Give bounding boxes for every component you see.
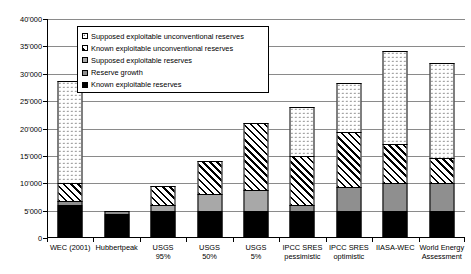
bar-segment — [197, 211, 222, 238]
stacked-bar[interactable] — [197, 161, 222, 238]
legend-item-label: Supposed exploitable reserves — [91, 56, 192, 65]
y-axis-tick-label: 30'000 — [0, 70, 42, 79]
legend-item-label: Supposed exploitable unconventional rese… — [91, 32, 244, 41]
bar-slot — [279, 19, 325, 238]
stacked-bar[interactable] — [290, 107, 315, 238]
legend-item: Supposed exploitable reserves — [82, 54, 268, 66]
stacked-bar[interactable] — [383, 51, 408, 238]
bar-segment — [290, 156, 315, 205]
x-axis-tick — [47, 238, 48, 242]
stacked-bar[interactable] — [336, 83, 361, 238]
bar-segment — [290, 211, 315, 238]
legend-swatch-icon — [82, 70, 88, 76]
y-axis-tick-label: 35'000 — [0, 42, 42, 51]
y-axis-tick-label: 20'000 — [0, 125, 42, 134]
bar-chart: 05'00010'00015'00020'00025'00030'00035'0… — [0, 0, 471, 274]
bar-segment — [58, 205, 83, 238]
bar-segment — [336, 187, 361, 211]
x-axis-tick — [140, 238, 141, 242]
x-axis-tick — [419, 238, 420, 242]
legend-item: Supposed exploitable unconventional rese… — [82, 30, 268, 42]
legend-item-label: Known exploitable unconventional reserve… — [91, 44, 233, 53]
legend-swatch-icon — [82, 57, 88, 63]
bar-segment — [290, 107, 315, 156]
x-axis-category-label: World Energy Assessment — [415, 243, 469, 262]
y-axis-tick-label: 10'000 — [0, 179, 42, 188]
x-axis-labels: WEC (2001)HubbertpeakUSGS 95%USGS 50%USG… — [47, 243, 465, 274]
bar-segment — [429, 183, 454, 210]
bar-segment — [336, 83, 361, 132]
legend-swatch-icon — [82, 33, 88, 39]
y-axis-tick-label: 40'000 — [0, 15, 42, 24]
bar-segment — [151, 211, 176, 238]
legend-item: Known exploitable reserves — [82, 79, 268, 91]
bar-slot — [326, 19, 372, 238]
x-axis-tick — [233, 238, 234, 242]
bar-segment — [58, 81, 83, 183]
bar-slot — [419, 19, 465, 238]
x-axis-tick — [326, 238, 327, 242]
bar-segment — [383, 144, 408, 183]
y-axis-tick-label: 25'000 — [0, 97, 42, 106]
y-axis-tick-label: 15'000 — [0, 152, 42, 161]
x-axis-tick — [372, 238, 373, 242]
bar-segment — [104, 214, 129, 238]
y-axis-tick-label: 5'000 — [0, 207, 42, 216]
bar-segment — [58, 183, 83, 201]
stacked-bar[interactable] — [58, 81, 83, 238]
bar-segment — [243, 190, 268, 210]
bar-segment — [243, 211, 268, 238]
bar-segment — [336, 211, 361, 238]
x-axis-tick — [279, 238, 280, 242]
bar-segment — [243, 123, 268, 190]
x-axis-tick — [186, 238, 187, 242]
legend-swatch-icon — [82, 45, 88, 51]
bar-segment — [383, 51, 408, 144]
bar-segment — [429, 211, 454, 238]
stacked-bar[interactable] — [243, 123, 268, 238]
bar-segment — [429, 158, 454, 184]
bar-segment — [197, 194, 222, 210]
legend-item-label: Reserve growth — [91, 68, 143, 77]
legend-swatch-icon — [82, 82, 88, 88]
bar-segment — [383, 183, 408, 210]
bar-segment — [151, 186, 176, 205]
stacked-bar[interactable] — [429, 63, 454, 238]
y-axis-tick-label: 0 — [0, 234, 42, 243]
stacked-bar[interactable] — [151, 186, 176, 238]
bar-segment — [429, 63, 454, 158]
chart-legend: Supposed exploitable unconventional rese… — [77, 26, 269, 93]
bar-segment — [197, 161, 222, 194]
legend-item: Known exploitable unconventional reserve… — [82, 42, 268, 54]
x-axis-tick — [93, 238, 94, 242]
x-axis-tick — [464, 238, 465, 242]
legend-item: Reserve growth — [82, 67, 268, 79]
legend-item-label: Known exploitable reserves — [91, 80, 181, 89]
bar-segment — [383, 211, 408, 238]
stacked-bar[interactable] — [104, 211, 129, 238]
bar-slot — [372, 19, 418, 238]
bar-segment — [336, 132, 361, 187]
